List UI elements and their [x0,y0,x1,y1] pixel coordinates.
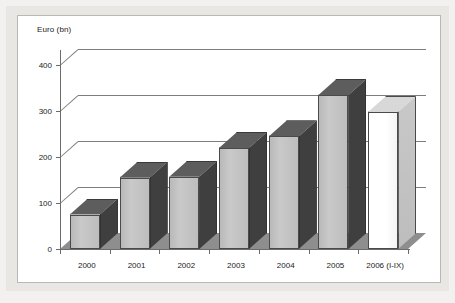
bar-front-face [318,95,348,249]
x-tick-label-2001: 2001 [128,261,146,270]
x-tick-mark-7 [408,250,409,254]
x-tick-label-2004: 2004 [277,261,295,270]
gridline-riser-300 [60,95,79,112]
bar-2000 [70,199,118,249]
bar-side-face [348,79,366,249]
bar-2001 [120,162,168,249]
x-tick-label-2006-i-ix-: 2006 (I-IX) [366,261,404,270]
x-tick-mark-2 [159,250,160,254]
x-tick-label-2002: 2002 [177,261,195,270]
x-tick-mark-4 [259,250,260,254]
bar-front-face [70,215,100,249]
bar-front-face [219,148,249,249]
x-tick-label-2000: 2000 [78,261,96,270]
y-tick-mark-200 [56,157,60,158]
bar-2002 [169,161,217,249]
x-tick-mark-3 [209,250,210,254]
y-tick-mark-100 [56,203,60,204]
x-tick-label-2003: 2003 [227,261,245,270]
y-tick-mark-400 [56,65,60,66]
y-tick-label-300: 300 [22,107,52,116]
y-tick-label-200: 200 [22,153,52,162]
bar-side-face [249,132,267,249]
x-tick-mark-1 [110,250,111,254]
gridline-riser-200 [60,141,79,158]
chart-page: Euro (bn) 0100200300400 2000200120022003… [0,0,455,303]
gridline-riser-400 [60,49,79,66]
y-tick-label-0: 0 [22,245,52,254]
bar-side-face [299,120,317,249]
y-axis-title: Euro (bn) [37,25,71,34]
bar-front-face [368,112,398,249]
gridline-400 [78,49,426,50]
chart-plate: Euro (bn) 0100200300400 2000200120022003… [17,15,441,283]
y-tick-label-100: 100 [22,199,52,208]
bar-front-face [269,136,299,249]
bar-2003 [219,132,267,249]
bar-2005 [318,79,366,249]
y-axis-line [60,50,61,251]
bar-side-face [398,96,416,249]
y-tick-mark-300 [56,111,60,112]
bar-2006-i-ix- [368,96,416,249]
x-tick-mark-6 [358,250,359,254]
bar-chart: Euro (bn) 0100200300400 2000200120022003… [18,16,440,282]
x-tick-mark-5 [309,250,310,254]
bar-front-face [169,177,199,249]
y-tick-label-400: 400 [22,61,52,70]
bar-2004 [269,120,317,249]
x-tick-mark-0 [60,250,61,254]
bar-front-face [120,178,150,249]
x-tick-label-2005: 2005 [327,261,345,270]
